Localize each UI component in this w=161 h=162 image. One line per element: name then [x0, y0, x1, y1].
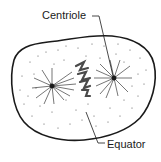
centriole-label: Centriole: [42, 10, 86, 21]
metaphase-cell-diagram: Centriole Equator: [0, 0, 161, 162]
equator-label: Equator: [107, 139, 146, 150]
